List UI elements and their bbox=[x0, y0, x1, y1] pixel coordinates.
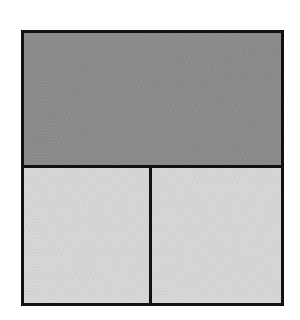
region-bottom-right-cell: lower right cell bbox=[152, 168, 281, 303]
figure-canvas: top band lower left cell lower right cel… bbox=[0, 0, 300, 320]
region-top-band: top band bbox=[24, 33, 281, 168]
divided-square: top band lower left cell lower right cel… bbox=[21, 30, 284, 306]
region-bottom-left-cell: lower left cell bbox=[24, 168, 152, 303]
